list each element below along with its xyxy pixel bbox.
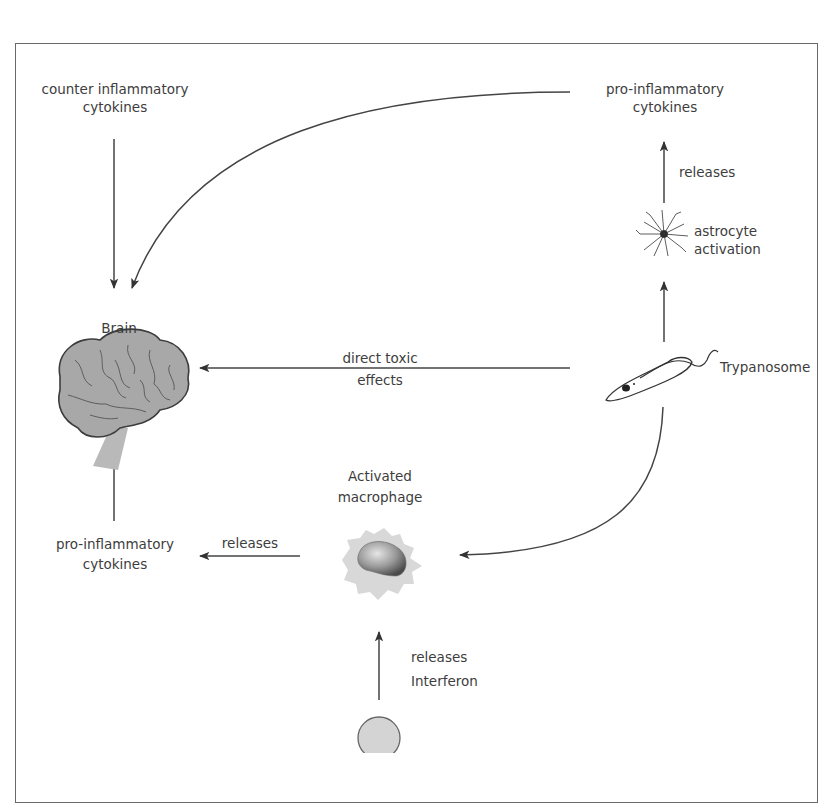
- macrophage-line1: Activated: [325, 467, 435, 485]
- label-brain: Brain: [84, 319, 154, 337]
- interferon-line2: Interferon: [411, 672, 478, 690]
- astrocyte-icon: [636, 210, 688, 256]
- trypanosome-icon: [606, 350, 718, 400]
- brain-icon: [59, 329, 189, 470]
- toxic-line1: direct toxic: [320, 349, 440, 367]
- label-trypanosome: Trypanosome: [720, 358, 810, 376]
- label-pro-inflammatory-cytokines-bottom: pro-inflammatory cytokines: [30, 535, 200, 573]
- astrocyte-line1: astrocyte: [694, 222, 761, 240]
- label-direct-toxic-effects: direct toxic effects: [320, 349, 440, 389]
- label-releases-interferon: releases Interferon: [411, 648, 478, 690]
- astrocyte-line2: activation: [694, 240, 761, 258]
- label-counter-inflammatory-cytokines: counter inflammatory cytokines: [30, 80, 200, 116]
- interferon-line1: releases: [411, 648, 478, 666]
- pro-cytokines-top-line1: pro-inflammatory: [580, 80, 750, 98]
- label-astrocyte-releases: releases: [679, 163, 735, 181]
- label-pro-inflammatory-cytokines-top: pro-inflammatory cytokines: [580, 80, 750, 116]
- toxic-line2: effects: [320, 371, 440, 389]
- counter-cytokines-line2: cytokines: [30, 98, 200, 116]
- counter-cytokines-line1: counter inflammatory: [30, 80, 200, 98]
- label-astrocyte-activation: astrocyte activation: [694, 222, 761, 258]
- arrow-pro-cytokines-to-brain: [132, 92, 570, 288]
- interferon-cell-icon: [358, 717, 400, 753]
- pro-cytokines-bottom-line1: pro-inflammatory: [30, 535, 200, 553]
- pro-cytokines-bottom-line2: cytokines: [30, 555, 200, 573]
- macrophage-line2: macrophage: [325, 488, 435, 506]
- macrophage-icon: [342, 528, 422, 600]
- label-macrophage-releases: releases: [210, 534, 290, 552]
- arrow-trypanosome-to-macrophage: [460, 407, 663, 555]
- label-activated-macrophage: Activated macrophage: [325, 467, 435, 506]
- pro-cytokines-top-line2: cytokines: [580, 98, 750, 116]
